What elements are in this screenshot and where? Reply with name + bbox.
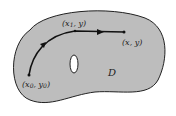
- hole: [70, 55, 78, 73]
- label-corner: (x1, y): [62, 19, 86, 28]
- region-label: D: [107, 67, 116, 78]
- label-end: (x, y): [122, 38, 142, 47]
- point-start: [28, 74, 31, 77]
- label-start: (x0, y0): [22, 80, 50, 89]
- point-end: [123, 31, 126, 34]
- point-corner: [74, 30, 76, 32]
- region-diagram: (x1, y) (x, y) (x0, y0) D: [0, 0, 176, 116]
